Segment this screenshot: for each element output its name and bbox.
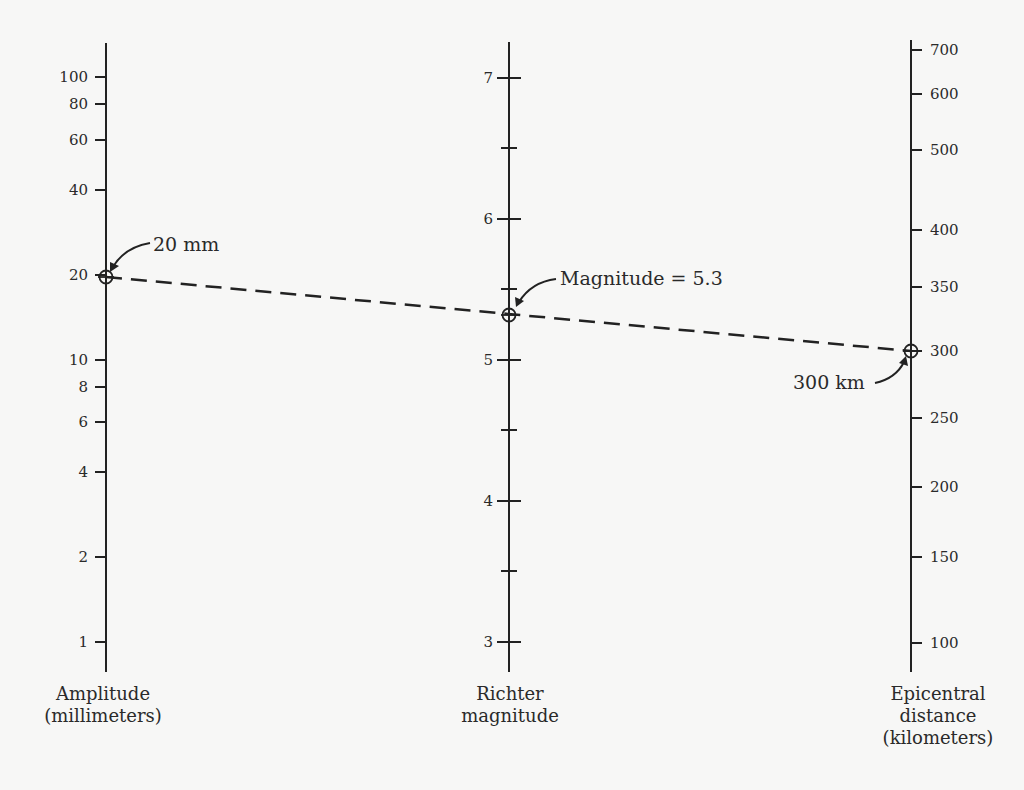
tick-label: 60	[69, 131, 88, 149]
axis-distance: 700600500400350300250200150100Epicentral…	[883, 40, 994, 748]
tick-label: 4	[483, 492, 493, 510]
axes: 100806040201086421Amplitude(millimeters)…	[44, 40, 993, 748]
tick-label: 100	[59, 68, 88, 86]
axis-title: Epicentral	[890, 683, 985, 704]
annotation-magnitude: Magnitude = 5.3	[560, 267, 723, 289]
tick-label: 200	[930, 478, 959, 496]
tick-label: 300	[930, 342, 959, 360]
arrow-magnitude	[519, 279, 556, 302]
tick-label: 400	[930, 221, 959, 239]
tick-label: 250	[930, 409, 959, 427]
arrow-distance	[875, 362, 904, 383]
tick-label: 20	[69, 266, 88, 284]
tick-label: 8	[78, 378, 88, 396]
tick-label: 2	[78, 548, 88, 566]
tick-label: 100	[930, 634, 959, 652]
tick-label: 40	[69, 181, 88, 199]
axis-title: Amplitude	[55, 683, 150, 704]
tick-label: 4	[78, 463, 88, 481]
axis-title: magnitude	[461, 705, 559, 726]
tick-label: 350	[930, 278, 959, 296]
tick-label: 3	[483, 633, 493, 651]
richter-nomogram: 100806040201086421Amplitude(millimeters)…	[0, 0, 1024, 790]
tick-label: 6	[483, 210, 493, 228]
axis-amplitude: 100806040201086421Amplitude(millimeters)	[44, 43, 162, 726]
tick-label: 80	[69, 95, 88, 113]
arrowhead-distance-icon	[899, 356, 908, 366]
tick-label: 150	[930, 548, 959, 566]
annotation-distance: 300 km	[793, 371, 865, 393]
tick-label: 500	[930, 141, 959, 159]
tick-label: 700	[930, 41, 959, 59]
arrow-amplitude	[113, 243, 150, 267]
tick-label: 5	[483, 351, 493, 369]
axis-title: (kilometers)	[883, 727, 994, 748]
axis-title: (millimeters)	[44, 705, 162, 726]
tick-label: 6	[78, 413, 88, 431]
annotation-amplitude: 20 mm	[153, 233, 219, 255]
axis-title: Richter	[476, 683, 544, 704]
tick-label: 1	[78, 633, 88, 651]
arrowhead-magnitude-icon	[515, 297, 524, 307]
axis-richter: 76543Richtermagnitude	[461, 42, 559, 726]
tick-label: 7	[483, 69, 493, 87]
tick-label: 600	[930, 85, 959, 103]
tick-label: 10	[69, 351, 88, 369]
axis-title: distance	[900, 705, 977, 726]
